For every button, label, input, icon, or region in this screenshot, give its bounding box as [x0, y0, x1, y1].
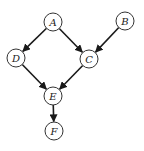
node-label: C	[85, 54, 93, 65]
node-label: F	[50, 126, 59, 137]
node-a: A	[44, 13, 62, 31]
node-f: F	[45, 122, 63, 140]
node-label: E	[48, 91, 57, 102]
node-b: B	[116, 12, 134, 30]
node-label: D	[11, 53, 20, 64]
edge-a-to-d	[23, 28, 47, 51]
node-label: A	[48, 17, 56, 28]
edge-b-to-c	[96, 28, 119, 53]
edges-group	[22, 28, 119, 122]
edge-c-to-e	[60, 65, 83, 89]
node-e: E	[44, 87, 62, 105]
dag-diagram: ABCDEF	[0, 0, 144, 151]
edge-d-to-e	[22, 64, 46, 89]
node-label: B	[120, 16, 128, 27]
node-d: D	[7, 49, 25, 67]
edge-a-to-c	[59, 28, 82, 52]
node-c: C	[80, 50, 98, 68]
